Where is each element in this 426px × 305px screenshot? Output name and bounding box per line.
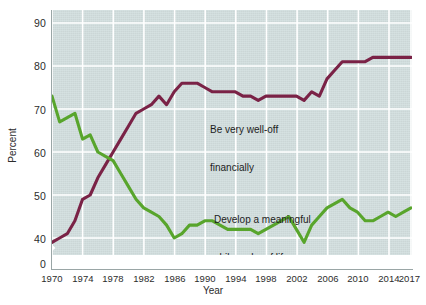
x-axis-title: Year	[183, 285, 243, 296]
annotation-develop-a-meaningful-philosophy-of-life: Develop a meaningful philosophy of life	[214, 189, 311, 255]
plot-area: Be very well-off financially Develop a m…	[52, 10, 412, 255]
y-tick-label-0: 0	[12, 258, 46, 270]
chart-page: Percent 90 80 70 60 50 40 0	[0, 0, 426, 305]
y-tick-label-70: 70	[12, 104, 46, 116]
y-tick-label-60: 60	[12, 147, 46, 159]
y-axis-title: Percent	[7, 116, 18, 176]
annotation-philosophy-line1: Develop a meaningful	[214, 214, 311, 227]
annotation-wealth-line2: financially	[210, 162, 278, 175]
annotation-be-very-well-off-financially: Be very well-off financially	[210, 99, 278, 199]
y-tick-label-80: 80	[12, 60, 46, 72]
y-axis-line	[51, 10, 52, 270]
y-axis-break-icon	[44, 244, 60, 264]
y-tick-label-90: 90	[12, 17, 46, 29]
x-axis-line	[51, 269, 413, 270]
y-tick-label-50: 50	[12, 190, 46, 202]
x-tick-label-2017: 2017	[393, 273, 426, 284]
y-tick-label-40: 40	[12, 233, 46, 245]
annotation-philosophy-line2: philosophy of life	[214, 252, 311, 256]
annotation-wealth-line1: Be very well-off	[210, 124, 278, 137]
